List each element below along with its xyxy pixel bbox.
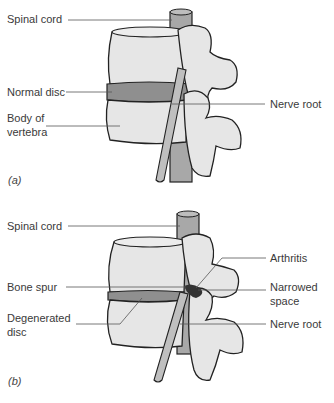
label-narrowed-space-line1: Narrowed <box>270 281 318 294</box>
label-spinal-cord-b: Spinal cord <box>7 220 62 233</box>
label-degenerated-disc-line1: Degenerated <box>7 312 71 325</box>
label-degenerated-disc-line2: disc <box>7 326 27 339</box>
label-normal-disc: Normal disc <box>7 86 65 99</box>
panel-b-degenerated-spine: Spinal cord Bone spur Degenerated disc A… <box>0 200 334 403</box>
lower-posterior-process <box>189 288 243 380</box>
label-body-of-vertebra-line1: Body of <box>7 112 44 125</box>
label-nerve-root-b: Nerve root <box>270 318 321 331</box>
label-body-of-vertebra-line2: vertebra <box>7 126 47 139</box>
label-narrowed-space-line2: space <box>270 295 299 308</box>
label-arthritis: Arthritis <box>270 252 307 265</box>
caption-b: (b) <box>8 375 21 387</box>
label-spinal-cord-a: Spinal cord <box>7 13 62 26</box>
label-bone-spur: Bone spur <box>7 281 57 294</box>
caption-a: (a) <box>8 174 21 186</box>
degenerated-disc-shape <box>108 291 184 302</box>
label-nerve-root-a: Nerve root <box>270 98 321 111</box>
panel-a-normal-spine: Spinal cord Normal disc Body of vertebra… <box>0 0 334 200</box>
